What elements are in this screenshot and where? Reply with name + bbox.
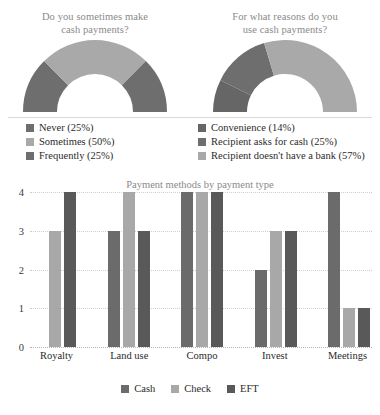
y-axis-tick-label: 0 <box>19 342 24 353</box>
donut-title-1-line2: cash payments? <box>0 23 190 36</box>
legend-swatch-icon <box>121 385 129 393</box>
bar <box>123 192 135 347</box>
bar-groups <box>34 192 370 347</box>
bar-group <box>328 192 370 347</box>
legend-swatch-icon <box>26 138 34 146</box>
section-divider <box>8 117 372 118</box>
y-axis-tick-label: 2 <box>19 264 24 275</box>
x-axis-category-label: Land use <box>107 350 152 361</box>
legend-label: Recipient doesn't have a bank (57%) <box>211 149 365 163</box>
half-donut-chart-1 <box>20 40 170 112</box>
legend-label: Sometimes (50%) <box>39 135 115 149</box>
legend-label: Convenience (14%) <box>211 121 295 135</box>
bar-chart-legend: CashCheckEFT <box>0 383 380 394</box>
x-axis-category-label: Royalty <box>34 350 79 361</box>
donut-graphic-2-wrap <box>190 40 380 112</box>
legend-item: Check <box>171 383 211 394</box>
bar-group <box>34 192 76 347</box>
donut-title-2-line1: For what reasons do you <box>232 11 338 22</box>
bar-chart-section: Payment methods by payment type 01234 Ro… <box>0 178 380 415</box>
bar <box>270 231 282 347</box>
donut-charts-row: Do you sometimes make cash payments? For… <box>0 0 380 110</box>
bar-group <box>255 192 297 347</box>
donut-panel-cash-reasons: For what reasons do you use cash payment… <box>190 0 380 110</box>
legend-item: Cash <box>121 383 155 394</box>
bar <box>328 192 340 347</box>
y-axis-tick-label: 1 <box>19 303 24 314</box>
bar <box>285 231 297 347</box>
donut-segment <box>264 40 357 112</box>
legend-item: EFT <box>227 383 259 394</box>
donut-legend-2: Convenience (14%) Recipient asks for cas… <box>190 121 380 163</box>
x-axis-category-label: Compo <box>180 350 225 361</box>
legend-label: EFT <box>240 383 259 394</box>
x-axis-labels: RoyaltyLand useCompoInvestMeetings <box>34 350 370 361</box>
donut-title-1-line1: Do you sometimes make <box>42 11 148 22</box>
y-axis: 01234 <box>0 192 30 347</box>
bar-chart-plot: 01234 RoyaltyLand useCompoInvestMeetings <box>0 192 380 372</box>
bar <box>64 192 76 347</box>
bar <box>343 308 355 347</box>
bar <box>358 308 370 347</box>
y-axis-tick-label: 3 <box>19 225 24 236</box>
x-axis-category-label: Invest <box>252 350 297 361</box>
bar <box>255 270 267 348</box>
axis-baseline <box>30 347 372 348</box>
legend-label: Never (25%) <box>39 121 94 135</box>
bar <box>211 192 223 347</box>
legend-item: Sometimes (50%) <box>26 135 190 149</box>
bar-group <box>108 192 150 347</box>
bar <box>138 231 150 347</box>
donut-legend-1: Never (25%) Sometimes (50%) Frequently (… <box>0 121 190 163</box>
donut-graphic-1-wrap <box>0 40 190 112</box>
legend-swatch-icon <box>198 138 206 146</box>
donut-legends-row: Never (25%) Sometimes (50%) Frequently (… <box>0 121 380 163</box>
y-axis-tick-label: 4 <box>19 187 24 198</box>
bar <box>196 192 208 347</box>
legend-swatch-icon <box>26 124 34 132</box>
bar <box>108 231 120 347</box>
legend-swatch-icon <box>26 152 34 160</box>
legend-item: Convenience (14%) <box>198 121 380 135</box>
legend-swatch-icon <box>227 385 235 393</box>
legend-label: Frequently (25%) <box>39 149 113 163</box>
donut-panel-cash-frequency: Do you sometimes make cash payments? <box>0 0 190 110</box>
legend-label: Check <box>184 383 211 394</box>
legend-swatch-icon <box>198 124 206 132</box>
legend-item: Frequently (25%) <box>26 149 190 163</box>
donut-title-1: Do you sometimes make cash payments? <box>0 0 190 36</box>
legend-label: Recipient asks for cash (25%) <box>211 135 337 149</box>
legend-label: Cash <box>134 383 155 394</box>
x-axis-category-label: Meetings <box>325 350 370 361</box>
bar <box>181 192 193 347</box>
half-donut-chart-2 <box>210 40 360 112</box>
bar <box>49 231 61 347</box>
bar-group <box>181 192 223 347</box>
donut-title-2: For what reasons do you use cash payment… <box>190 0 380 36</box>
legend-item: Recipient doesn't have a bank (57%) <box>198 149 380 163</box>
legend-item: Never (25%) <box>26 121 190 135</box>
bar-chart-title: Payment methods by payment type <box>0 178 380 192</box>
donut-title-2-line2: use cash payments? <box>190 23 380 36</box>
legend-swatch-icon <box>171 385 179 393</box>
legend-swatch-icon <box>198 152 206 160</box>
legend-item: Recipient asks for cash (25%) <box>198 135 380 149</box>
